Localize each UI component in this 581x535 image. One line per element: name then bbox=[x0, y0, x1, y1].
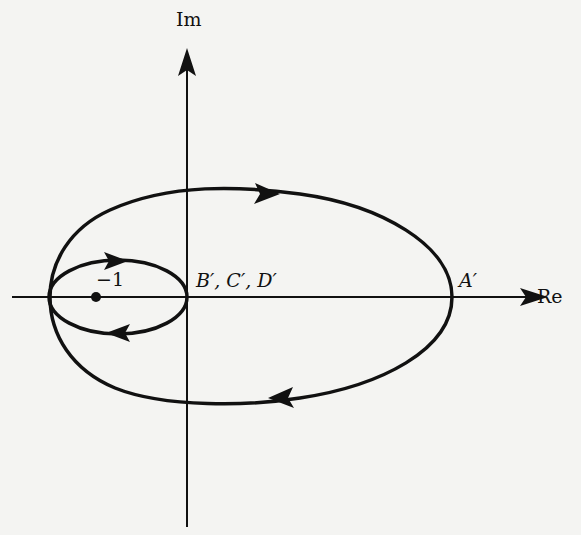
critical-point-dot bbox=[91, 292, 101, 302]
origin-label: B′, C′, D′ bbox=[196, 269, 277, 291]
outer-contour bbox=[50, 183, 452, 408]
critical-point-label: −1 bbox=[96, 268, 124, 290]
nyquist-diagram bbox=[0, 0, 581, 535]
real-axis-label: Re bbox=[537, 285, 563, 307]
imaginary-axis bbox=[178, 48, 196, 527]
a-prime-label: A′ bbox=[459, 269, 477, 291]
imaginary-axis-label: Im bbox=[176, 8, 202, 30]
outer-contour-arrow-bottom-icon bbox=[268, 387, 294, 408]
outer-contour-arrow-top-icon bbox=[254, 183, 280, 204]
